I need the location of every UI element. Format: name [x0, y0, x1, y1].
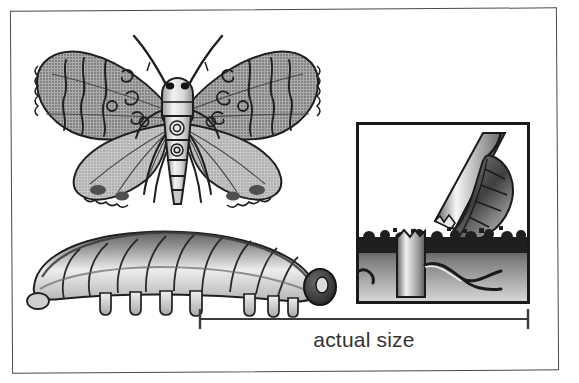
moth-abdomen	[164, 116, 191, 140]
scale-caption: actual size	[196, 328, 532, 351]
illustration-plate: actual size	[0, 0, 579, 383]
larva-tail-claspers	[27, 293, 49, 309]
adult-moth-illustration	[22, 18, 332, 223]
larva-illustration	[20, 215, 350, 315]
stem-stump	[397, 230, 425, 297]
damage-inset-illustration	[356, 122, 530, 304]
larva-head-marking	[316, 277, 328, 293]
